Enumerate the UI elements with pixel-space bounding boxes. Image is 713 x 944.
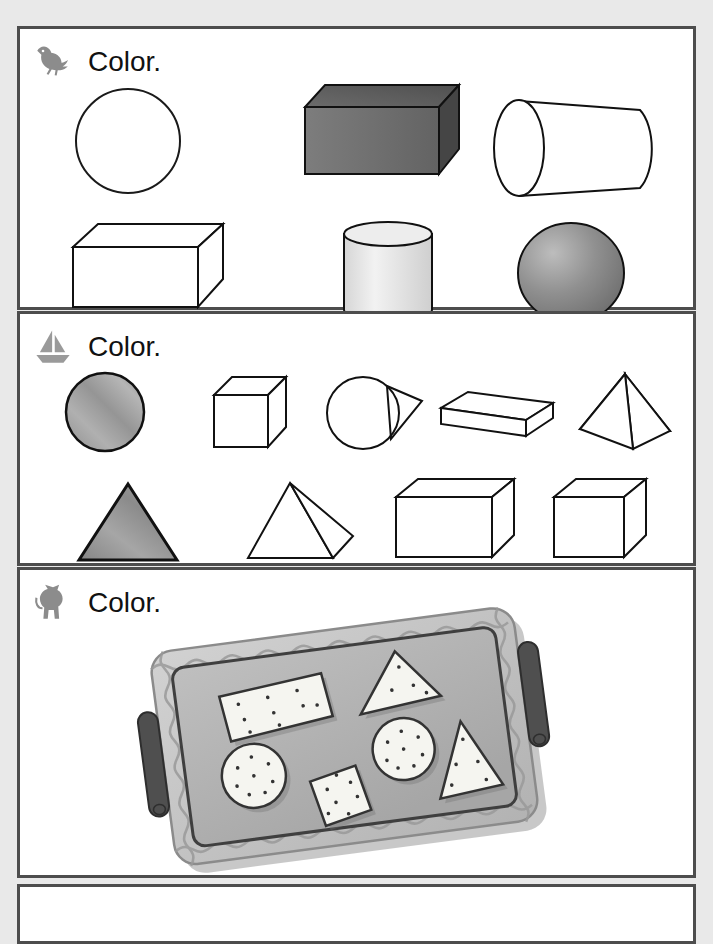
section-2-shapes (20, 314, 693, 563)
rectangular-prism-outline (68, 219, 228, 314)
section-1-shapes (20, 29, 693, 307)
section-1-panel: Color. (17, 26, 696, 310)
triangle-colored (76, 480, 181, 564)
flat-slab-prism-outline (438, 386, 556, 446)
cylinder-vertical-shaded (338, 220, 438, 325)
rectangular-prism-outline-2 (392, 475, 518, 563)
baking-tray-illustration (20, 570, 699, 881)
baking-tray-with-crackers (140, 608, 560, 873)
cube-outline (210, 373, 292, 453)
square-pyramid-outline (573, 371, 673, 455)
sphere-outline-circle (73, 86, 183, 196)
circle-colored (64, 371, 146, 453)
section-3-panel: Color. (17, 567, 696, 878)
cone-outline (323, 374, 433, 454)
cylinder-horizontal-outline (490, 96, 665, 196)
shaded-rectangular-prism (287, 71, 467, 191)
cube-outline-2 (550, 475, 650, 563)
section-4-panel (17, 884, 696, 944)
tetrahedron-outline (245, 480, 357, 564)
section-2-panel: Color. (17, 311, 696, 566)
